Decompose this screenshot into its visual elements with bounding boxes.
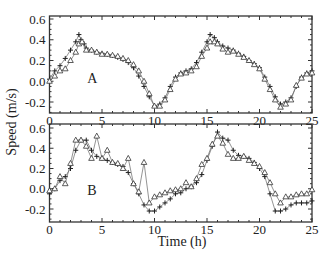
x-axis-label: Time (h) <box>158 234 207 250</box>
y-tick-label: 0.6 <box>29 121 46 136</box>
plus-marker <box>273 209 278 214</box>
panel-label: B <box>87 183 96 198</box>
y-tick-label: -0.2 <box>25 202 46 217</box>
panel-a: 0510152025-0.20.00.20.40.6A <box>25 12 319 129</box>
triangle-marker <box>230 48 236 53</box>
triangle-marker <box>309 187 315 192</box>
plus-marker <box>226 138 231 143</box>
triangle-marker <box>183 180 189 185</box>
triangle-marker <box>141 159 147 164</box>
plus-marker <box>68 48 73 53</box>
triangle-marker <box>104 147 110 152</box>
y-tick-label: 0.0 <box>29 181 45 196</box>
triangle-marker <box>73 137 79 142</box>
triangle-marker <box>209 141 215 146</box>
y-tick-label: 0.4 <box>29 141 46 156</box>
series-line-plus <box>50 132 313 211</box>
triangle-marker <box>194 176 200 181</box>
triangle-marker <box>299 191 305 196</box>
y-axis-label: Speed (m/s) <box>4 88 20 156</box>
triangle-marker <box>272 191 278 196</box>
triangle-marker <box>267 180 273 185</box>
triangle-marker <box>204 155 210 160</box>
triangle-marker <box>225 151 231 156</box>
plus-marker <box>63 56 68 61</box>
plot-frame <box>50 16 313 113</box>
triangle-marker <box>68 58 74 63</box>
panel-b: 0510152025-0.20.00.20.40.6B <box>25 121 319 238</box>
plus-marker <box>76 32 81 37</box>
triangle-marker <box>94 133 100 138</box>
y-tick-label: 0.2 <box>29 161 45 176</box>
y-tick-label: 0.2 <box>29 53 45 68</box>
plus-marker <box>278 209 283 214</box>
panel-label: A <box>87 71 98 86</box>
plus-marker <box>208 32 213 37</box>
plus-marker <box>299 200 304 205</box>
triangle-marker <box>283 194 289 199</box>
x-tick-label: 5 <box>99 222 106 237</box>
triangle-marker <box>141 78 147 83</box>
plus-marker <box>268 191 273 196</box>
plus-marker <box>84 138 89 143</box>
y-tick-label: -0.2 <box>25 95 46 110</box>
triangle-marker <box>304 191 310 196</box>
triangle-marker <box>125 155 131 160</box>
figure: 0510152025-0.20.00.20.40.6A 0510152025-0… <box>0 0 327 257</box>
triangle-marker <box>267 87 273 92</box>
triangle-marker <box>62 66 68 71</box>
triangle-marker <box>167 87 173 92</box>
y-tick-label: 0.4 <box>29 32 46 47</box>
triangle-marker <box>131 62 137 67</box>
plot-frame <box>50 124 313 222</box>
x-tick-label: 25 <box>306 222 319 237</box>
triangle-marker <box>73 49 79 54</box>
x-tick-label: 0 <box>46 222 53 237</box>
x-tick-label: 20 <box>253 222 266 237</box>
triangle-marker <box>57 174 63 179</box>
triangle-marker <box>89 155 95 160</box>
plus-marker <box>304 200 309 205</box>
plus-marker <box>199 172 204 177</box>
y-tick-label: 0.0 <box>29 74 45 89</box>
plus-marker <box>105 158 110 163</box>
y-tick-label: 0.6 <box>29 12 46 27</box>
triangle-marker <box>230 155 236 160</box>
plus-marker <box>294 200 299 205</box>
